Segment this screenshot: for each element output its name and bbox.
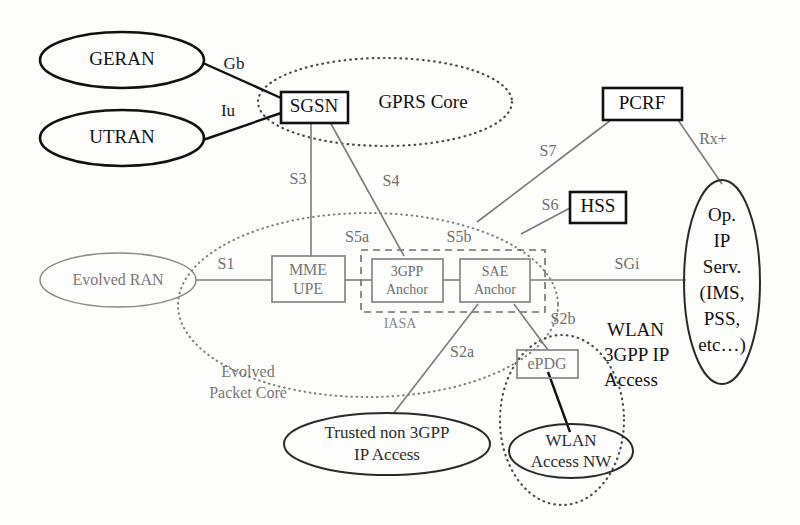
- gprs-core-label: GPRS Core: [378, 91, 467, 112]
- wlan-3gpp-ip-access-label-line3: Access: [604, 369, 658, 390]
- interface-label-gb: Gb: [224, 54, 245, 73]
- iasa-label: IASA: [384, 316, 418, 331]
- mme-upe-label-line1: MME: [289, 261, 327, 278]
- trusted-non-3gpp-label-line1: Trusted non 3GPP: [324, 423, 449, 442]
- op-ip-serv-label-line3: Serv.: [703, 256, 741, 277]
- evolved-packet-core-label-line1: Evolved: [221, 363, 274, 380]
- wlan-3gpp-ip-access-label-line2: 3GPP IP: [604, 344, 669, 365]
- interface-label-rx-plus: Rx+: [699, 130, 727, 147]
- utran-label: UTRAN: [89, 126, 155, 147]
- op-ip-serv-label-line4: (IMS,: [700, 282, 745, 304]
- evolved-packet-core-label-line2: Packet Core: [209, 384, 287, 401]
- hss-label: HSS: [581, 195, 616, 216]
- diagram-canvas: GERAN UTRAN Evolved RAN Trusted non 3GPP…: [0, 0, 800, 525]
- interface-label-s3: S3: [290, 170, 307, 187]
- op-ip-serv-label-line2: IP: [714, 230, 731, 251]
- link-epdg-wlan-access-nw: [548, 372, 570, 432]
- trusted-non-3gpp-label-line2: IP Access: [354, 445, 420, 464]
- interface-label-s5b: S5b: [447, 228, 472, 245]
- network-architecture-diagram: GERAN UTRAN Evolved RAN Trusted non 3GPP…: [0, 0, 800, 525]
- op-ip-serv-label-line1: Op.: [708, 204, 736, 225]
- sgsn-label: SGSN: [290, 95, 339, 116]
- op-ip-serv-label-line5: PSS,: [704, 308, 740, 329]
- 3gpp-anchor-label-line1: 3GPP: [391, 264, 424, 279]
- interface-label-s2a: S2a: [450, 343, 474, 360]
- geran-label: GERAN: [89, 48, 155, 69]
- mme-upe-label-line2: UPE: [293, 280, 323, 297]
- link-sae-anchor-epdg-s2b: [514, 304, 548, 350]
- interface-label-s2b: S2b: [551, 310, 576, 327]
- op-ip-serv-label-line6: etc…): [698, 334, 745, 356]
- link-utran-sgsn: [203, 113, 281, 140]
- wlan-access-nw-label-line1: WLAN: [546, 431, 597, 450]
- wlan-3gpp-ip-access-label-line1: WLAN: [607, 319, 664, 340]
- interface-label-sgi: SGi: [615, 255, 640, 272]
- interface-label-s1: S1: [218, 255, 235, 272]
- pcrf-label: PCRF: [619, 92, 665, 113]
- interface-label-s7: S7: [540, 142, 557, 159]
- interface-label-s6: S6: [542, 196, 559, 213]
- 3gpp-anchor-label-line2: Anchor: [386, 282, 428, 297]
- sae-anchor-label-line1: SAE: [482, 264, 508, 279]
- interface-label-s4: S4: [383, 172, 400, 189]
- interface-label-iu: Iu: [221, 101, 236, 120]
- evolved-ran-label: Evolved RAN: [72, 271, 164, 288]
- epdg-label: ePDG: [527, 355, 567, 372]
- interface-label-s5a: S5a: [345, 228, 369, 245]
- sae-anchor-label-line2: Anchor: [474, 282, 516, 297]
- wlan-access-nw-label-line2: Access NW: [531, 452, 613, 471]
